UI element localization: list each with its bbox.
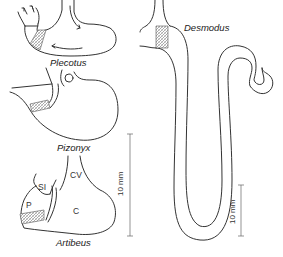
scale-bar-right: 10 mm [228,185,244,236]
desmodus-stomach: Desmodus [140,0,273,240]
region-p: P [26,200,32,210]
artibeus-hatched-region [20,210,44,224]
pizonyx-stomach: Pizonyx [10,68,118,153]
desmodus-hatched-region [156,26,168,48]
stomach-comparison-diagram: Plecotus Pizonyx SI P CV C Artibeus 10 m… [0,0,283,257]
scale-bar-left: 10 mm [116,134,133,236]
label-pizonyx: Pizonyx [57,142,92,153]
plecotus-stomach: Plecotus [18,0,116,68]
pizonyx-esophagus-opening [65,74,73,82]
region-c: C [73,206,79,216]
region-cv: CV [70,170,82,180]
diagram-canvas: Plecotus Pizonyx SI P CV C Artibeus 10 m… [0,0,283,257]
label-artibeus: Artibeus [55,237,91,248]
label-plecotus: Plecotus [50,57,87,68]
scale-right-label: 10 mm [228,199,237,224]
scale-left-label: 10 mm [116,171,125,196]
artibeus-stomach: SI P CV C Artibeus [20,156,115,248]
pizonyx-hatched-region [30,100,50,112]
region-si: SI [38,182,46,192]
label-desmodus: Desmodus [184,22,230,33]
